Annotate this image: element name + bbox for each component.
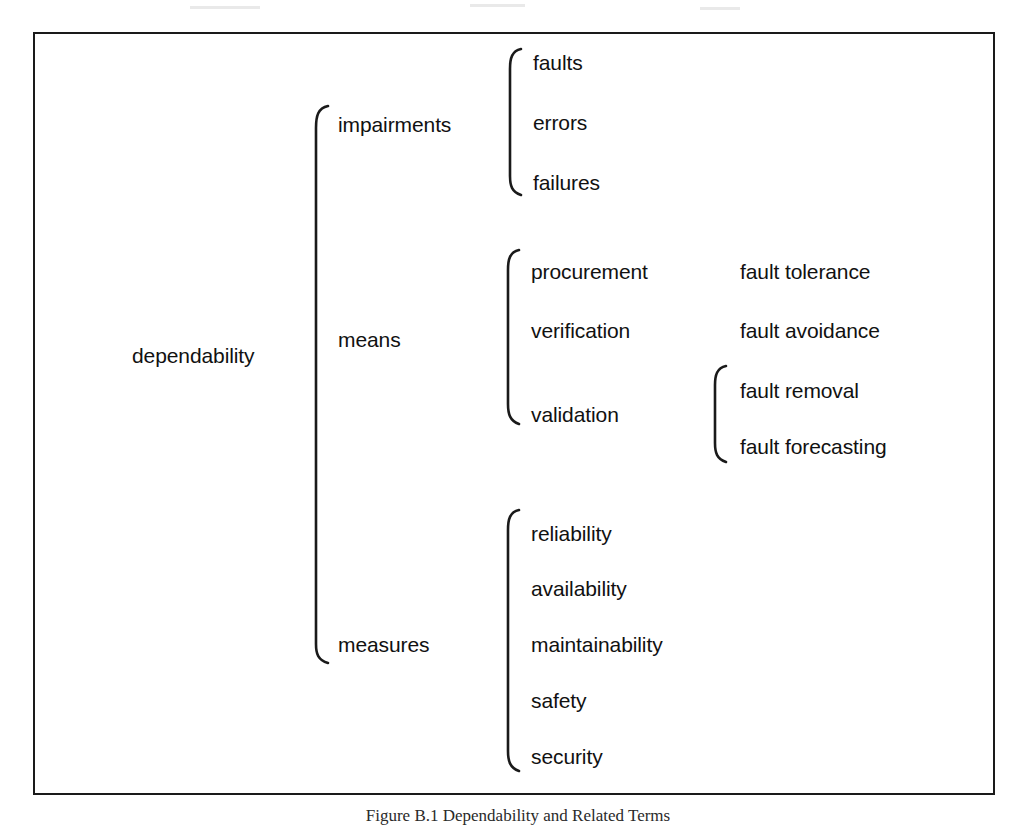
figure-caption: Figure B.1 Dependability and Related Ter… [0,806,1036,832]
scan-artifact [470,4,525,7]
node-fault-forecasting: fault forecasting [740,436,887,457]
node-failures: failures [533,172,600,193]
node-faults: faults [533,52,583,73]
node-measures: measures [338,634,429,655]
node-reliability: reliability [531,523,612,544]
node-fault-removal: fault removal [740,380,859,401]
figure-page: dependability impairments means measures… [0,0,1036,832]
scan-artifact [700,7,740,10]
node-safety: safety [531,690,586,711]
node-availability: availability [531,578,627,599]
node-dependability: dependability [132,345,254,366]
node-procurement: procurement [531,261,648,282]
node-impairments: impairments [338,114,451,135]
node-fault-avoidance: fault avoidance [740,320,880,341]
figure-frame [33,32,995,795]
node-errors: errors [533,112,587,133]
node-verification: verification [531,320,630,341]
node-means: means [338,329,401,350]
node-fault-tolerance: fault tolerance [740,261,870,282]
node-validation: validation [531,404,619,425]
node-maintainability: maintainability [531,634,663,655]
scan-artifact [190,6,260,9]
node-security: security [531,746,603,767]
